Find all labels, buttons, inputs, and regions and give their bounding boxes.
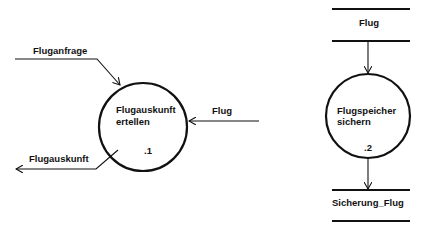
- process-2-label-line2: sichern: [337, 116, 371, 127]
- process-2: Flugspeicher sichern .2: [326, 74, 410, 158]
- flug-in-label: Flug: [212, 105, 232, 116]
- process-1-label-line2: ertellen: [116, 116, 150, 127]
- process-1-label-line1: Flugauskunft: [116, 104, 176, 115]
- flow-fluganfrage: Fluganfrage: [15, 45, 120, 85]
- flow-flug-in: Flug: [189, 105, 259, 121]
- process-1: Flugauskunft ertellen .1: [99, 83, 187, 171]
- fluganfrage-arrow: [15, 59, 120, 85]
- process-2-number: .2: [364, 142, 372, 153]
- flugauskunft-label: Flugauskunft: [29, 153, 89, 164]
- process-1-circle: [99, 83, 187, 171]
- store-sicherung-label: Sicherung_Flug: [332, 197, 404, 208]
- store-flug-label: Flug: [359, 17, 379, 28]
- store-sicherung-flug: Sicherung_Flug: [332, 190, 410, 221]
- fluganfrage-label: Fluganfrage: [33, 45, 87, 56]
- flow-flugauskunft: Flugauskunft: [16, 150, 118, 169]
- data-flow-diagram: Fluganfrage Flugauskunft ertellen .1 Flu…: [0, 0, 422, 229]
- process-1-number: .1: [144, 145, 153, 156]
- process-2-label-line1: Flugspeicher: [337, 105, 396, 116]
- store-flug: Flug: [332, 9, 410, 41]
